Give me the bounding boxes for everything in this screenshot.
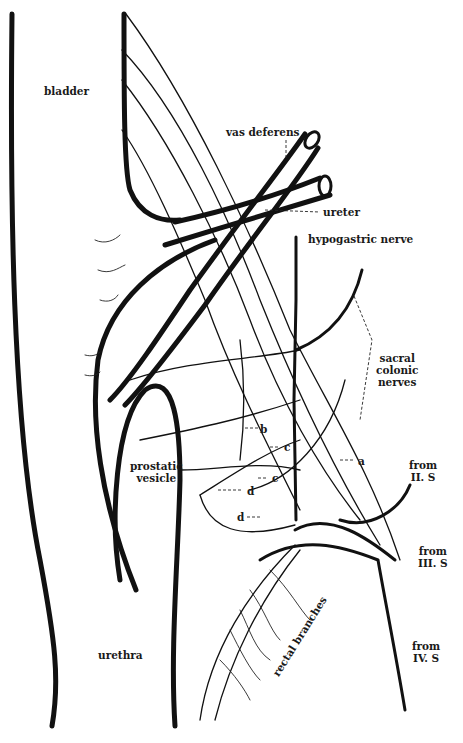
label-c-2: c: [272, 472, 278, 484]
label-a: a: [358, 455, 365, 467]
from-IV-S-line-1: from: [412, 640, 440, 652]
from-II-S-line-2: II. S: [409, 471, 437, 483]
label-d-2: d: [237, 511, 244, 523]
from-III-S-line-2: III. S: [418, 557, 448, 569]
sacral-colonic-line-2: colonic: [376, 364, 418, 376]
from-II-S-line-1: from: [409, 459, 437, 471]
sacral-colonic-line-3: nerves: [376, 376, 418, 388]
label-b: b: [260, 423, 267, 435]
from-IV-S-label: from IV. S: [412, 640, 440, 664]
prostatic-vesicle-label: prostatic vesicle: [130, 460, 183, 484]
sacral-colonic-nerves-label: sacral colonic nerves: [376, 352, 418, 388]
prostatic-vesicle-line-2: vesicle: [130, 472, 183, 484]
from-III-S-label: from III. S: [418, 545, 448, 569]
label-d-1: d: [247, 485, 254, 497]
bladder-outline: [124, 14, 180, 220]
ureter-cut-end: [319, 176, 331, 196]
bladder-label: bladder: [44, 85, 89, 97]
hypogastric-nerve-label: hypogastric nerve: [308, 233, 413, 245]
bladder-wall: [11, 14, 55, 726]
sacral-colonic-nerve-1: [296, 270, 362, 350]
sacral-colonic-leader: [354, 296, 372, 420]
urethra-label: urethra: [98, 649, 143, 661]
nerve-plexus-figure: bladder vas deferens ureter hypogastric …: [0, 0, 463, 743]
prostatic-vesicle-line-1: prostatic: [130, 460, 183, 472]
sacral-colonic-line-1: sacral: [376, 352, 418, 364]
from-III-S-line-1: from: [418, 545, 448, 557]
label-c-1: c: [284, 441, 290, 453]
hypogastric-nerve-line: [294, 237, 296, 520]
from-II-S-label: from II. S: [409, 459, 437, 483]
vas-deferens-label: vas deferens: [226, 126, 299, 138]
from-IV-S-line-2: IV. S: [412, 652, 440, 664]
vas-deferens-upper: [110, 134, 305, 400]
ureter-label: ureter: [323, 206, 360, 218]
